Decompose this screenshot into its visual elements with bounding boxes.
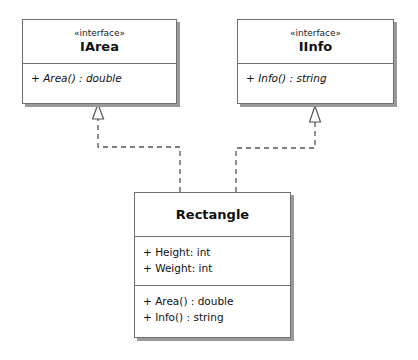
operation-item: + Area() : double	[143, 293, 290, 309]
class-name: Rectangle	[176, 207, 249, 223]
attributes-compartment: + Height: int + Weight: int	[135, 237, 290, 286]
operations-compartment: + Area() : double	[23, 64, 176, 86]
attribute-item: + Height: int	[143, 244, 290, 260]
class-name: IArea	[80, 39, 119, 55]
class-box-iinfo[interactable]: «interface» IInfo + Info() : string	[237, 19, 394, 104]
operation-item: + Area() : double	[31, 70, 176, 86]
class-header: «interface» IArea	[23, 20, 176, 64]
class-box-rectangle[interactable]: Rectangle + Height: int + Weight: int + …	[134, 192, 291, 338]
operation-item: + Info() : string	[246, 70, 393, 86]
attribute-item: + Weight: int	[143, 260, 290, 276]
stereotype-label: «interface»	[290, 28, 341, 39]
class-name: IInfo	[299, 39, 333, 55]
hollow-triangle-arrowhead-icon	[310, 106, 321, 122]
class-header: Rectangle	[135, 193, 290, 237]
operation-item: + Info() : string	[143, 309, 290, 325]
operations-compartment: + Area() : double + Info() : string	[135, 286, 290, 325]
realization-rectangle-to-iarea	[93, 104, 181, 192]
stereotype-label: «interface»	[74, 28, 125, 39]
class-header: «interface» IInfo	[238, 20, 393, 64]
realization-rectangle-to-iinfo	[236, 106, 321, 192]
operations-compartment: + Info() : string	[238, 64, 393, 86]
hollow-triangle-arrowhead-icon	[93, 104, 104, 119]
class-box-iarea[interactable]: «interface» IArea + Area() : double	[22, 19, 177, 104]
